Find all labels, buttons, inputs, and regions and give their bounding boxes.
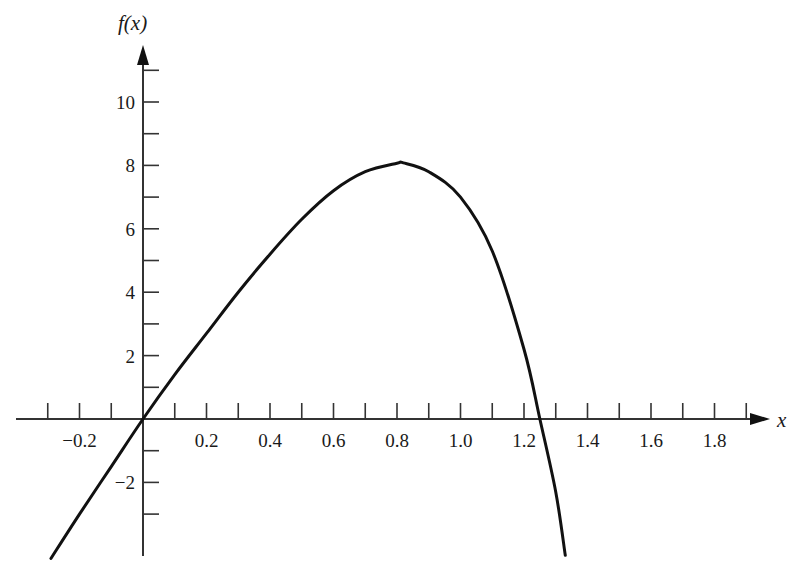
x-tick-label: 0.6 <box>322 430 346 451</box>
y-tick-label: 10 <box>116 92 135 113</box>
x-axis-label: x <box>776 408 787 432</box>
x-tick-label: 1.6 <box>639 430 663 451</box>
x-tick-label: 1.0 <box>449 430 473 451</box>
y-axis-arrow-icon <box>137 45 149 65</box>
x-tick-label: 1.2 <box>512 430 536 451</box>
function-plot: −0.20.20.40.60.81.01.21.41.61.8 −2246810… <box>0 0 799 571</box>
x-tick-label: 0.2 <box>195 430 219 451</box>
x-tick-label: −0.2 <box>62 430 96 451</box>
x-axis-arrow-icon <box>750 413 770 425</box>
y-tick-label: −2 <box>115 472 135 493</box>
y-tick-label: 8 <box>126 155 136 176</box>
y-tick-label: 4 <box>126 282 136 303</box>
x-tick-label: 0.8 <box>385 430 409 451</box>
y-axis-label: f(x) <box>118 11 147 35</box>
y-axis <box>137 45 149 556</box>
x-axis-tick-labels: −0.20.20.40.60.81.01.21.41.61.8 <box>62 430 726 451</box>
y-axis-ticks <box>143 70 159 514</box>
x-tick-label: 1.4 <box>576 430 600 451</box>
x-axis <box>16 413 770 425</box>
y-tick-label: 6 <box>126 219 136 240</box>
x-tick-label: 1.8 <box>703 430 727 451</box>
x-tick-label: 0.4 <box>258 430 282 451</box>
y-tick-label: 2 <box>126 346 136 367</box>
